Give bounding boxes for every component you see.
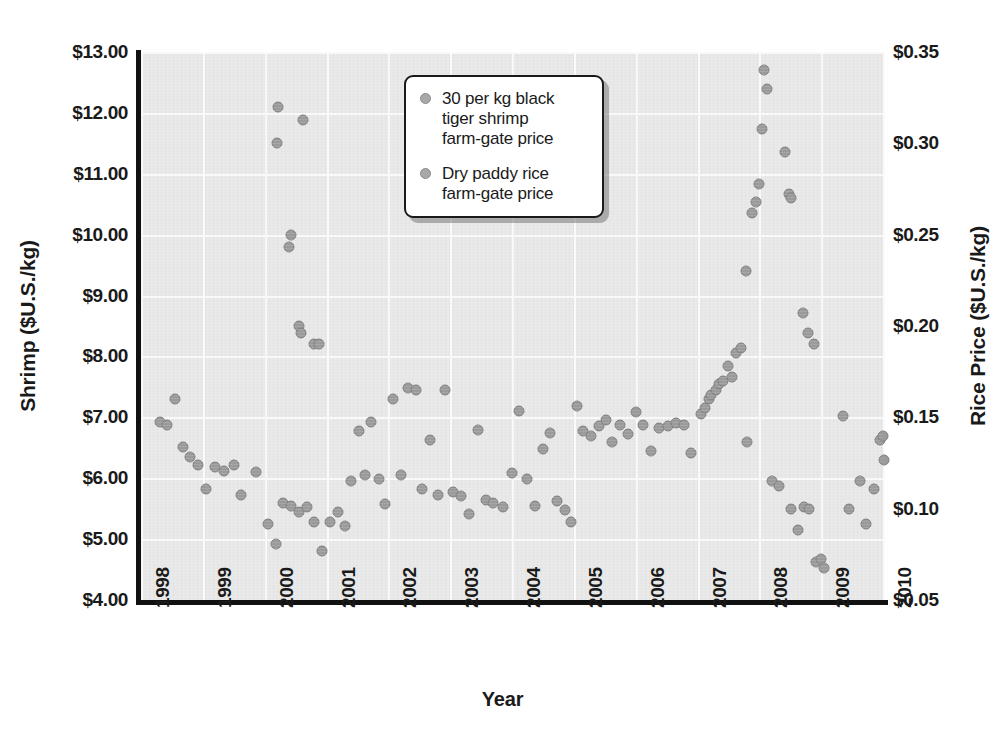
- data-point: [388, 394, 399, 405]
- data-point: [272, 138, 283, 149]
- data-point: [411, 384, 422, 395]
- data-point: [868, 484, 879, 495]
- data-point: [723, 361, 734, 372]
- data-point: [314, 339, 325, 350]
- data-point: [170, 394, 181, 405]
- gridline-vertical: [388, 52, 390, 600]
- x-tick-label: 2000: [276, 567, 298, 608]
- data-point: [273, 101, 284, 112]
- data-point: [819, 563, 830, 574]
- data-point: [332, 506, 343, 517]
- data-point: [860, 518, 871, 529]
- data-point: [740, 266, 751, 277]
- data-point: [565, 517, 576, 528]
- y-tick-label-right: $0.35: [893, 41, 939, 63]
- gridline-vertical: [883, 52, 885, 600]
- data-point: [537, 443, 548, 454]
- y-tick-label-left: $12.00: [72, 102, 128, 124]
- data-point: [678, 419, 689, 430]
- data-point: [514, 406, 525, 417]
- y-tick-label-right: $0.15: [893, 406, 939, 428]
- y-axis-left-title: Shrimp ($U.S./kg): [16, 240, 40, 412]
- data-point: [803, 503, 814, 514]
- x-tick-label: 2002: [400, 567, 422, 608]
- y-tick-label-right: $0.25: [893, 224, 939, 246]
- data-point: [228, 459, 239, 470]
- data-point: [440, 384, 451, 395]
- data-point: [262, 518, 273, 529]
- y-tick-label-right: $0.10: [893, 498, 939, 520]
- data-point: [218, 465, 229, 476]
- x-tick-label: 1999: [214, 567, 236, 608]
- data-point: [754, 178, 765, 189]
- legend-label-shrimp: 30 per kg black tiger shrimp farm-gate p…: [442, 89, 554, 149]
- data-point: [559, 504, 570, 515]
- data-point: [380, 498, 391, 509]
- y-tick-label-left: $10.00: [72, 224, 128, 246]
- data-point: [161, 419, 172, 430]
- legend-item-shrimp: 30 per kg black tiger shrimp farm-gate p…: [420, 89, 590, 149]
- y-tick-label-right: $0.20: [893, 315, 939, 337]
- data-point: [417, 484, 428, 495]
- gridline-horizontal: [141, 539, 883, 541]
- y-tick-label-left: $8.00: [82, 345, 128, 367]
- y-tick-label-left: $6.00: [82, 467, 128, 489]
- data-point: [309, 517, 320, 528]
- data-point: [837, 411, 848, 422]
- data-point: [646, 445, 657, 456]
- data-point: [630, 407, 641, 418]
- data-point: [854, 476, 865, 487]
- x-tick-label: 2010: [894, 567, 916, 608]
- data-point: [808, 339, 819, 350]
- data-point: [780, 147, 791, 158]
- data-point: [295, 328, 306, 339]
- x-axis-title: Year: [0, 688, 1005, 711]
- data-point: [374, 474, 385, 485]
- y-tick-label-left: $5.00: [82, 528, 128, 550]
- data-point: [843, 503, 854, 514]
- gridline-horizontal: [141, 296, 883, 298]
- gridline-vertical: [636, 52, 638, 600]
- data-point: [761, 83, 772, 94]
- chart-legend: 30 per kg black tiger shrimp farm-gate p…: [404, 75, 604, 218]
- data-point: [735, 342, 746, 353]
- chart-figure: $4.00$5.00$6.00$7.00$8.00$9.00$10.00$11.…: [0, 0, 1005, 730]
- y-tick-label-left: $7.00: [82, 406, 128, 428]
- data-point: [757, 123, 768, 134]
- data-point: [786, 503, 797, 514]
- data-point: [774, 480, 785, 491]
- legend-marker-shrimp-icon: [420, 93, 431, 104]
- data-point: [530, 500, 541, 511]
- y-tick-label-left: $13.00: [72, 41, 128, 63]
- data-point: [178, 441, 189, 452]
- gridline-horizontal: [141, 356, 883, 358]
- data-point: [726, 372, 737, 383]
- x-tick-label: 2001: [338, 567, 360, 608]
- y-axis-right-title: Rice Price ($U.S./kg): [966, 226, 990, 426]
- legend-label-rice: Dry paddy rice farm-gate price: [442, 164, 553, 204]
- data-point: [395, 470, 406, 481]
- data-point: [353, 425, 364, 436]
- y-tick-label-left: $11.00: [73, 163, 128, 185]
- data-point: [285, 229, 296, 240]
- data-point: [432, 490, 443, 501]
- data-point: [607, 436, 618, 447]
- data-point: [879, 454, 890, 465]
- gridline-horizontal: [141, 52, 883, 54]
- x-tick-label: 2003: [461, 567, 483, 608]
- data-point: [472, 424, 483, 435]
- data-point: [340, 520, 351, 531]
- gridline-horizontal: [141, 235, 883, 237]
- data-point: [284, 242, 295, 253]
- x-tick-label: 2004: [523, 567, 545, 608]
- data-point: [686, 447, 697, 458]
- data-point: [638, 419, 649, 430]
- data-point: [324, 517, 335, 528]
- data-point: [346, 476, 357, 487]
- data-point: [751, 196, 762, 207]
- data-point: [802, 328, 813, 339]
- data-point: [497, 502, 508, 513]
- x-tick-label: 2008: [771, 567, 793, 608]
- data-point: [623, 429, 634, 440]
- data-point: [316, 546, 327, 557]
